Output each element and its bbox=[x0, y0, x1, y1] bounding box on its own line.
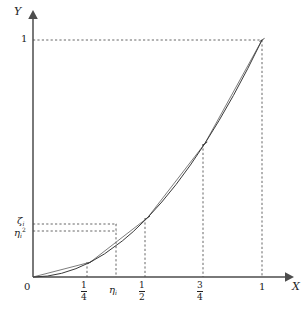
x-tick-label-quarter: 1 4 bbox=[81, 281, 87, 304]
y-tick-label-one: 1 bbox=[21, 33, 27, 44]
graph-canvas bbox=[0, 0, 307, 310]
y-axis-label: Y bbox=[14, 5, 21, 18]
y-axis-arrowhead bbox=[28, 10, 38, 19]
chord-polyline bbox=[33, 40, 262, 277]
function-graph-figure: Y X 0 1 ζi ηi2 1 4 ηi 1 2 3 4 bbox=[0, 0, 307, 310]
quarter-denominator: 4 bbox=[81, 293, 87, 302]
origin-label: 0 bbox=[24, 281, 30, 292]
eta-subscript: i bbox=[20, 232, 22, 239]
y-tick-label-eta-i-squared: ηi2 bbox=[14, 226, 26, 239]
parabola-curve bbox=[33, 40, 262, 277]
half-denominator: 2 bbox=[139, 293, 145, 302]
three-quarters-numerator: 3 bbox=[197, 281, 203, 290]
curve-node-tick bbox=[202, 142, 207, 145]
half-numerator: 1 bbox=[139, 281, 145, 290]
x-tick-label-three-quarters: 3 4 bbox=[197, 281, 203, 304]
quarter-numerator: 1 bbox=[81, 281, 87, 290]
x-tick-label-one: 1 bbox=[259, 281, 265, 292]
eta-superscript: 2 bbox=[22, 226, 26, 233]
axes bbox=[28, 10, 294, 282]
three-quarters-denominator: 4 bbox=[197, 293, 203, 302]
x-tick-label-half: 1 2 bbox=[139, 281, 145, 304]
eta-x-subscript: i bbox=[115, 289, 117, 296]
x-tick-label-eta-i: ηi bbox=[109, 284, 117, 296]
curve-node-tick bbox=[145, 216, 150, 219]
curve-node-markers bbox=[88, 38, 265, 263]
dashed-guides bbox=[33, 40, 262, 277]
x-axis-label: X bbox=[292, 280, 300, 293]
